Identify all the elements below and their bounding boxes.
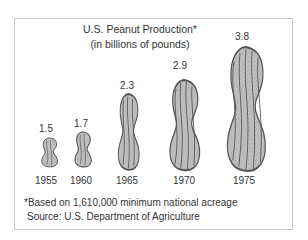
peanut-icon-1960 <box>75 132 91 167</box>
year-label-1955: 1955 <box>31 175 61 186</box>
peanut-icon-1970 <box>170 80 200 170</box>
peanut-icon-1975 <box>227 47 265 171</box>
year-label-1970: 1970 <box>169 175 199 186</box>
source-note: Source: U.S. Department of Agriculture <box>27 211 200 222</box>
value-label-1965: 2.3 <box>112 80 142 91</box>
peanut-icon-1965 <box>118 94 139 170</box>
footnote: *Based on 1,610,000 minimum national acr… <box>24 197 237 208</box>
value-label-1970: 2.9 <box>165 60 195 71</box>
value-label-1960: 1.7 <box>66 118 96 129</box>
year-label-1960: 1960 <box>66 175 96 186</box>
year-label-1965: 1965 <box>112 175 142 186</box>
peanut-icon-1955 <box>42 138 58 167</box>
value-label-1955: 1.5 <box>31 123 61 134</box>
year-label-1975: 1975 <box>229 175 259 186</box>
value-label-1975: 3.8 <box>227 31 257 42</box>
